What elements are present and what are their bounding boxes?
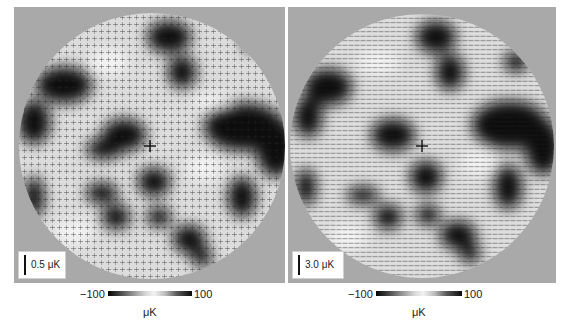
colorbar-unit-label: μK <box>412 306 426 318</box>
scale-label: 3.0 μK <box>305 259 334 270</box>
scale-legend-left: 0.5 μK <box>18 251 66 279</box>
temperature-map-left <box>14 7 285 283</box>
temperature-map-right <box>288 7 556 283</box>
colorbar-max-label: 100 <box>464 288 482 300</box>
colorbar-gradient <box>108 291 192 296</box>
colorbar-gradient <box>376 291 462 296</box>
map-panel-right: 3.0 μK <box>288 7 556 283</box>
scale-bar-icon <box>298 255 300 275</box>
scale-legend-right: 3.0 μK <box>292 251 344 279</box>
scale-label: 0.5 μK <box>31 259 60 270</box>
colorbar-max-label: 100 <box>194 288 212 300</box>
colorbar-right: −100 100 μK <box>348 288 493 324</box>
colorbar-min-label: −100 <box>80 288 105 300</box>
colorbar-left: −100 100 μK <box>80 288 220 324</box>
colorbar-min-label: −100 <box>348 288 373 300</box>
scale-bar-icon <box>24 255 26 275</box>
map-panel-left: 0.5 μK <box>14 7 285 283</box>
colorbar-unit-label: μK <box>143 306 157 318</box>
